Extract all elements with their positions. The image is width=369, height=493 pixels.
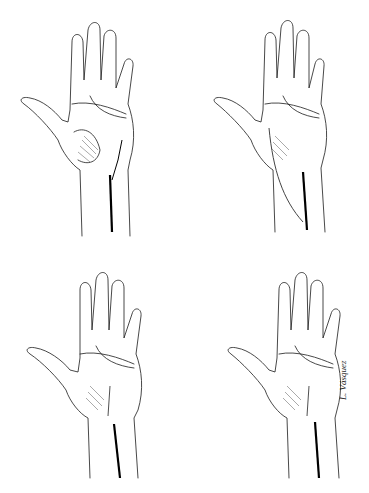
panel-bottom-left — [0, 246, 184, 492]
artist-signature: L. Vásquez — [338, 360, 348, 400]
hand-illustration — [0, 0, 184, 246]
hand-illustration — [0, 246, 184, 492]
panel-top-right — [185, 0, 369, 246]
panel-top-left — [0, 0, 184, 246]
hand-illustration — [185, 0, 369, 246]
